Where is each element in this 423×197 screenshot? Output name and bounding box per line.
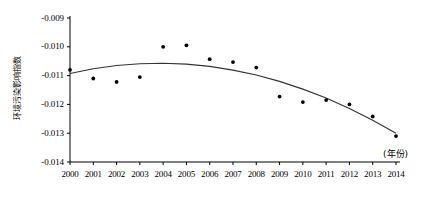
chart-figure: -0.009-0.010-0.011-0.012-0.013-0.014 200… [0,0,423,197]
data-point-marker [91,77,95,81]
data-point-marker [185,43,189,47]
y-axis-title: 环境污染影响指数 [14,48,22,128]
x-axis-tick-label: 2013 [360,170,386,179]
data-point-marker [138,75,142,79]
trend-line-path [70,63,396,133]
axes-group [70,16,400,162]
data-point-marker [231,60,235,64]
y-axis-tick-label: -0.013 [27,129,64,138]
x-axis-tick-label: 2009 [267,170,293,179]
data-point-marker [324,98,328,102]
x-axis-tick-label: 2008 [243,170,269,179]
data-point-marker [208,57,212,61]
x-axis-tick-label: 2006 [197,170,223,179]
y-axis-tick-label: -0.011 [27,71,64,80]
y-axis-tick-label: -0.012 [27,100,64,109]
x-axis-tick-label: 2014 [383,170,409,179]
data-point-marker [348,103,352,107]
data-point-marker [301,100,305,104]
x-axis-tick-label: 2000 [57,170,83,179]
x-axis-tick-label: 2005 [173,170,199,179]
data-point-marker [161,45,165,49]
x-axis-tick-label: 2003 [127,170,153,179]
data-point-marker [371,115,375,119]
x-axis-tick-label: 2011 [313,170,339,179]
data-point-markers [68,43,398,138]
y-axis-tick-label: -0.009 [27,14,64,23]
x-axis-tick-label: 2012 [336,170,362,179]
data-point-marker [278,95,282,99]
x-axis-tick-label: 2001 [80,170,106,179]
data-point-marker [115,80,119,84]
x-axis-tick-label: 2010 [290,170,316,179]
y-axis-tick-label: -0.014 [27,158,64,167]
x-axis-tick-label: 2007 [220,170,246,179]
x-axis-tick-label: 2002 [104,170,130,179]
x-axis-tick-label: 2004 [150,170,176,179]
data-point-marker [254,66,258,70]
data-point-marker [394,134,398,138]
data-point-marker [68,68,72,72]
y-axis-tick-label: -0.010 [27,42,64,51]
x-axis-title: (年份) [383,150,408,159]
